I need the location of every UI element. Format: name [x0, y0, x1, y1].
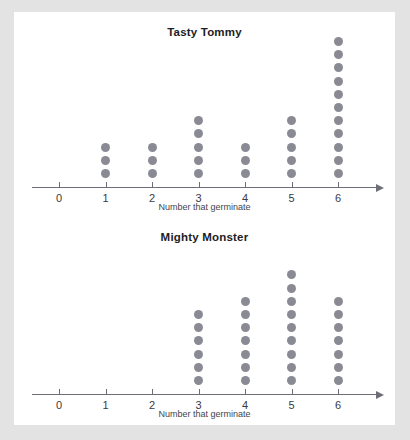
data-dot — [241, 156, 250, 165]
data-dot — [194, 323, 203, 332]
data-dot — [334, 77, 343, 86]
data-dot — [241, 336, 250, 345]
data-dot — [194, 363, 203, 372]
data-dot — [334, 50, 343, 59]
data-dot — [287, 129, 296, 138]
data-dot — [334, 323, 343, 332]
data-dot — [287, 270, 296, 279]
dot-plot-page: Tasty Tommy 0123456 Number that germinat… — [0, 0, 410, 440]
data-dot — [334, 129, 343, 138]
x-axis-tick — [59, 182, 60, 188]
data-dot — [334, 376, 343, 385]
data-dot — [241, 323, 250, 332]
data-dot — [334, 297, 343, 306]
data-dot — [241, 297, 250, 306]
plot-area-top: 0123456 — [14, 12, 395, 217]
x-axis-tick — [199, 389, 200, 395]
data-dot — [241, 143, 250, 152]
x-axis-arrow-icon — [376, 184, 384, 192]
plot-area-bottom: 0123456 — [14, 218, 395, 425]
data-dot — [287, 350, 296, 359]
x-axis-tick — [59, 389, 60, 395]
data-dot — [334, 63, 343, 72]
data-dot — [334, 310, 343, 319]
data-dot — [287, 143, 296, 152]
data-dot — [287, 310, 296, 319]
data-dot — [148, 143, 157, 152]
chart-mighty-monster: Mighty Monster 0123456 Number that germi… — [14, 218, 395, 425]
data-dot — [287, 376, 296, 385]
data-dot — [334, 103, 343, 112]
x-axis-tick — [245, 389, 246, 395]
x-axis-tick — [338, 389, 339, 395]
data-dot — [287, 284, 296, 293]
data-dot — [101, 143, 110, 152]
data-dot — [194, 336, 203, 345]
x-axis-label: Number that germinate — [14, 202, 395, 212]
x-axis-tick — [338, 182, 339, 188]
data-dot — [334, 37, 343, 46]
data-dot — [194, 143, 203, 152]
data-dot — [287, 116, 296, 125]
data-dot — [287, 323, 296, 332]
data-dot — [334, 156, 343, 165]
x-axis-tick — [106, 182, 107, 188]
data-dot — [194, 116, 203, 125]
data-dot — [194, 350, 203, 359]
x-axis-line — [32, 187, 377, 188]
data-dot — [241, 310, 250, 319]
data-dot — [287, 336, 296, 345]
x-axis-tick — [292, 182, 293, 188]
data-dot — [334, 143, 343, 152]
data-dot — [334, 363, 343, 372]
data-dot — [194, 169, 203, 178]
data-dot — [334, 336, 343, 345]
data-dot — [287, 297, 296, 306]
data-dot — [241, 169, 250, 178]
x-axis-arrow-icon — [376, 391, 384, 399]
chart-card: Tasty Tommy 0123456 Number that germinat… — [14, 12, 395, 425]
data-dot — [194, 156, 203, 165]
chart-tasty-tommy: Tasty Tommy 0123456 Number that germinat… — [14, 12, 395, 217]
data-dot — [148, 169, 157, 178]
data-dot — [287, 363, 296, 372]
x-axis-line — [32, 394, 377, 395]
x-axis-tick — [292, 389, 293, 395]
data-dot — [241, 376, 250, 385]
x-axis-tick — [152, 182, 153, 188]
data-dot — [194, 310, 203, 319]
data-dot — [334, 169, 343, 178]
data-dot — [101, 156, 110, 165]
data-dot — [334, 90, 343, 99]
data-dot — [334, 350, 343, 359]
data-dot — [148, 156, 157, 165]
data-dot — [241, 350, 250, 359]
x-axis-tick — [152, 389, 153, 395]
data-dot — [194, 129, 203, 138]
x-axis-tick — [106, 389, 107, 395]
data-dot — [287, 169, 296, 178]
data-dot — [334, 116, 343, 125]
data-dot — [101, 169, 110, 178]
x-axis-tick — [199, 182, 200, 188]
x-axis-tick — [245, 182, 246, 188]
data-dot — [194, 376, 203, 385]
data-dot — [287, 156, 296, 165]
data-dot — [241, 363, 250, 372]
x-axis-label: Number that germinate — [14, 409, 395, 419]
